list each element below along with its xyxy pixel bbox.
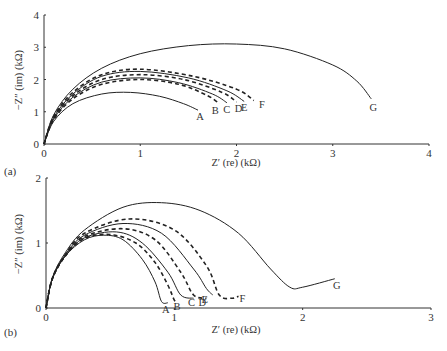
panel-b-curve-label-b: B [173,301,180,312]
panel-a-y-axis-label: −Z″ (im) (kΩ) [13,49,25,110]
panel-b-axes: 0123012 [36,172,435,323]
panel-b-curve-label-f: F [240,293,246,304]
panel-b-label: (b) [4,326,17,339]
panel-a-axes: 0123401234 [34,9,433,159]
panel-b-curves: ABCDEFG [46,203,341,315]
panel-a-label: (a) [4,165,17,178]
panel-b-chart: 0123012 ABCDEFG Z′ (re) (kΩ) −Z″ (im) (k… [4,172,434,339]
panel-a-curve-label-f: F [259,99,265,110]
panel-b-x-tick-label: 2 [300,311,306,323]
panel-b-y-tick-label: 1 [36,237,42,249]
panel-a-curve-label-c: C [223,104,230,115]
panel-b-x-tick-label: 1 [172,311,178,323]
panel-a-y-tick-label: 3 [34,41,40,53]
panel-b-x-tick-label: 3 [428,311,434,323]
impedance-charts: 0123401234 ABCDEFG Z′ (re) (kΩ) −Z″ (im)… [0,0,447,351]
panel-a-x-tick-label: 1 [138,147,144,159]
panel-a-curve-g [44,44,371,144]
panel-a-x-tick-label: 3 [330,147,336,159]
panel-b-curve-label-g: G [333,280,341,291]
panel-b-x-tick-label: 0 [43,311,49,323]
panel-b-curve-label-c: C [188,297,195,308]
panel-a-chart: 0123401234 ABCDEFG Z′ (re) (kΩ) −Z″ (im)… [4,9,432,178]
panel-a-x-tick-label: 4 [426,147,432,159]
panel-a-curve-d [44,75,237,144]
panel-a-y-tick-label: 2 [34,74,40,86]
panel-a-curve-label-a: A [196,111,204,122]
panel-a-curve-label-g: G [369,102,377,113]
panel-b-curve-b [46,234,177,308]
panel-a-curve-label-b: B [212,105,219,116]
panel-b-curve-c [46,232,194,308]
panel-b-curve-a [46,235,168,308]
panel-b-x-axis-label: Z′ (re) (kΩ) [211,324,261,336]
panel-a-curve-b [44,80,219,145]
panel-b-curve-g [46,203,335,308]
panel-a-y-tick-label: 0 [34,138,40,150]
panel-b-curve-label-e: E [202,294,208,305]
panel-a-y-tick-label: 4 [34,9,40,21]
panel-b-curve-label-a: A [162,304,170,315]
panel-a-x-tick-label: 0 [41,147,47,159]
panel-b-y-axis-label: −Z″ (im) (kΩ) [13,213,25,274]
panel-a-x-axis-label: Z′ (re) (kΩ) [211,157,261,169]
panel-b-y-tick-label: 2 [36,172,42,184]
panel-b-y-tick-label: 0 [36,302,42,314]
panel-a-curve-label-e: E [241,102,247,113]
panel-a-y-tick-label: 1 [34,106,40,118]
panel-b-curve-e [46,223,213,308]
panel-a-curves: ABCDEFG [44,44,377,144]
